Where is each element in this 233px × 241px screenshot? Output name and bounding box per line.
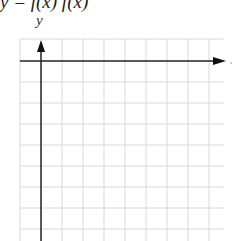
coordinate-grid xyxy=(0,0,233,241)
y-axis-arrow-icon xyxy=(37,40,45,52)
x-axis-arrow-icon xyxy=(213,57,226,65)
